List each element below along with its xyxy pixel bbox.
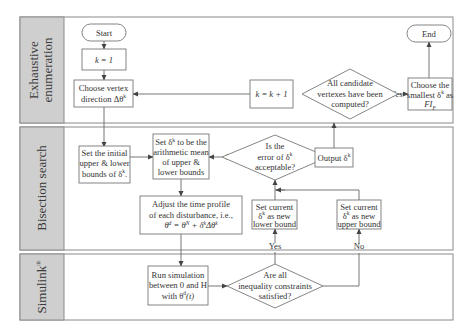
- lane-label-simulink: Simulink®: [34, 260, 49, 314]
- node-adjust-profile: Adjust the time profile of each disturba…: [140, 196, 242, 234]
- svg-text:lower bounds: lower bounds: [158, 167, 205, 177]
- node-choose-vertex: Choose vertex direction Δθk: [74, 80, 133, 107]
- svg-text:lower bound: lower bound: [253, 219, 297, 229]
- svg-text:Output δk: Output δk: [318, 152, 351, 163]
- lane-label-enumeration: enumeration: [40, 37, 55, 102]
- node-k-increment: k = k + 1: [250, 80, 293, 108]
- node-set-mean: Set δk to be the arithmetic mean of uppe…: [153, 134, 209, 179]
- svg-text:direction Δθk: direction Δθk: [81, 93, 126, 104]
- svg-text:k = k + 1: k = k + 1: [255, 89, 287, 99]
- svg-text:acceptable?: acceptable?: [255, 162, 295, 172]
- svg-text:upper bound: upper bound: [337, 219, 381, 229]
- svg-text:All candidate: All candidate: [327, 78, 373, 88]
- svg-text:vertexes have been: vertexes have been: [317, 89, 383, 99]
- svg-text:End: End: [422, 29, 437, 39]
- node-end: End: [407, 25, 451, 42]
- svg-text:with θd(t): with θd(t): [162, 290, 195, 301]
- svg-text:computed?: computed?: [331, 99, 369, 109]
- node-run-simulation: Run simulation between 0 and H with θd(t…: [148, 266, 208, 305]
- svg-text:θd = θN + δkΔθk: θd = θN + δkΔθk: [164, 220, 218, 231]
- svg-text:Is the: Is the: [266, 141, 285, 151]
- label-no-constraints: No: [354, 241, 365, 251]
- svg-text:Set δk to be the: Set δk to be the: [155, 137, 207, 148]
- node-start: Start: [82, 24, 126, 41]
- svg-text:error of δk: error of δk: [258, 151, 293, 162]
- node-k-init: k = 1: [82, 49, 126, 70]
- flowchart: Exhaustive enumeration Bisection search …: [0, 0, 472, 336]
- svg-text:Adjust the time profile: Adjust the time profile: [152, 199, 230, 209]
- lane-label-exhaustive: Exhaustive: [26, 41, 41, 99]
- svg-text:satisfied?: satisfied?: [259, 291, 292, 301]
- svg-text:between 0 and H: between 0 and H: [149, 280, 207, 290]
- node-set-upper-bound: Set current δk as new upper bound: [337, 200, 381, 229]
- svg-text:Start: Start: [96, 28, 113, 38]
- svg-text:Run simulation: Run simulation: [152, 270, 205, 280]
- node-set-lower-bound: Set current δk as new lower bound: [252, 200, 297, 229]
- node-output: Output δk: [315, 148, 353, 167]
- svg-text:Set the initial: Set the initial: [82, 148, 128, 158]
- lane-label-bisection: Bisection search: [34, 145, 49, 231]
- svg-text:upper & lower: upper & lower: [79, 158, 129, 168]
- svg-text:arithmetic mean: arithmetic mean: [153, 147, 209, 157]
- svg-text:Are all: Are all: [263, 270, 287, 280]
- svg-text:bounds of δk.: bounds of δk.: [82, 168, 127, 179]
- svg-text:inequality constraints: inequality constraints: [238, 281, 312, 291]
- svg-text:of each disturbance, i.e.,: of each disturbance, i.e.,: [149, 210, 233, 220]
- svg-text:Choose vertex: Choose vertex: [79, 83, 129, 93]
- node-set-initial-bounds: Set the initial upper & lower bounds of …: [79, 146, 130, 183]
- svg-text:smallest δk as: smallest δk as: [407, 89, 454, 100]
- svg-text:k = 1: k = 1: [95, 55, 113, 65]
- label-yes-constraints: Yes: [269, 241, 282, 251]
- node-choose-smallest: Choose the smallest δk as FIF: [407, 78, 454, 111]
- svg-text:of upper &: of upper &: [162, 157, 200, 167]
